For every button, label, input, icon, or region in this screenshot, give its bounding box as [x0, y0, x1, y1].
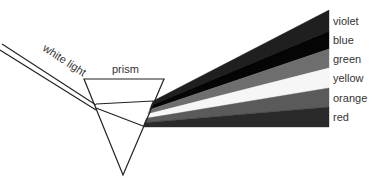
- spectrum-bands: [143, 10, 329, 127]
- prism-dispersion-diagram: white light prism violetbluegreenyellowo…: [0, 0, 379, 194]
- white-light-label: white light: [40, 41, 88, 78]
- band-label-violet: violet: [333, 15, 359, 27]
- band-label-orange: orange: [333, 92, 367, 104]
- spectrum-labels: violetbluegreenyelloworangered: [333, 15, 367, 124]
- band-label-red: red: [333, 111, 349, 123]
- band-label-green: green: [333, 53, 361, 65]
- band-label-yellow: yellow: [333, 72, 364, 84]
- labels: white light prism: [40, 41, 139, 78]
- band-label-blue: blue: [333, 34, 354, 46]
- white-light-line-2: [0, 50, 96, 110]
- prism-label: prism: [112, 63, 139, 75]
